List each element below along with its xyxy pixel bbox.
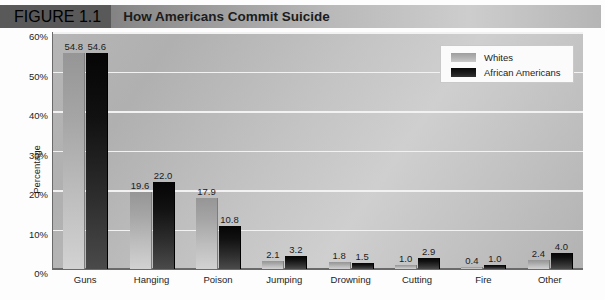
bar-whites[interactable] (130, 192, 152, 269)
figure-title: How Americans Commit Suicide (123, 9, 330, 24)
legend-item-african-americans: African Americans (451, 65, 573, 80)
bar-african-americans[interactable] (153, 182, 175, 269)
bar-african-americans[interactable] (418, 258, 440, 269)
y-axis-tick-label: 40% (8, 110, 48, 121)
figure-number-label: FIGURE 1.1 (14, 8, 101, 26)
bar-whites[interactable] (63, 53, 85, 269)
bar-value-label: 10.8 (209, 214, 249, 225)
x-axis-tick-label: Cutting (382, 274, 452, 285)
bar-african-americans[interactable] (219, 226, 241, 269)
bar-whites[interactable] (461, 267, 483, 269)
x-axis-tick-label: Fire (448, 274, 518, 285)
x-axis-tick-label: Other (515, 274, 585, 285)
bar-group: 2.13.2 (251, 32, 317, 269)
y-axis-tick-label: 50% (8, 70, 48, 81)
bar-whites[interactable] (329, 262, 351, 269)
legend-swatch-icon-african-americans (451, 68, 476, 77)
x-axis-tick-label: Guns (50, 274, 120, 285)
x-axis-tick-label: Hanging (117, 274, 187, 285)
figure-title-bar: FIGURE 1.1 How Americans Commit Suicide (0, 5, 601, 28)
bar-value-label: 3.2 (276, 244, 316, 255)
bar-value-label: 1.5 (342, 251, 382, 262)
legend-swatch-icon-whites (451, 53, 476, 62)
bar-african-americans[interactable] (285, 256, 307, 269)
bar-group: 17.910.8 (185, 32, 251, 269)
legend-item-whites: Whites (451, 50, 573, 65)
bar-african-americans[interactable] (551, 253, 573, 269)
figure-container: FIGURE 1.1 How Americans Commit Suicide … (0, 0, 605, 300)
bar-value-label: 54.6 (77, 41, 117, 52)
y-axis-tick-label: 20% (8, 189, 48, 200)
bar-value-label: 22.0 (143, 170, 183, 181)
x-axis-tick-label: Poison (183, 274, 253, 285)
bar-group: 19.622.0 (118, 32, 184, 269)
y-axis-tick-labels: 0%10%20%30%40%50%60% (8, 32, 48, 269)
bar-african-americans[interactable] (86, 53, 108, 269)
y-axis-tick-label: 10% (8, 228, 48, 239)
bar-value-label: 17.9 (186, 186, 226, 197)
bar-value-label: 1.0 (475, 253, 515, 264)
chart-canvas: Percentage 0%10%20%30%40%50%60% 54.854.6… (0, 28, 605, 300)
y-axis-tick-label: 60% (8, 31, 48, 42)
bar-group: 54.854.6 (52, 32, 118, 269)
bar-value-label: 4.0 (541, 241, 581, 252)
bar-group: 1.81.5 (318, 32, 384, 269)
bar-african-americans[interactable] (352, 263, 374, 269)
bar-whites[interactable] (196, 198, 218, 269)
bar-whites[interactable] (395, 265, 417, 269)
chart-legend: Whites African Americans (440, 45, 574, 83)
bar-african-americans[interactable] (484, 265, 506, 269)
legend-label-whites: Whites (484, 52, 513, 63)
y-axis-tick-label: 30% (8, 149, 48, 160)
x-axis-tick-label: Jumping (249, 274, 319, 285)
legend-label-african-americans: African Americans (484, 67, 561, 78)
figure-number-badge: FIGURE 1.1 (0, 5, 111, 28)
x-axis-tick-label: Drowning (316, 274, 386, 285)
bar-whites[interactable] (262, 261, 284, 269)
bar-value-label: 2.9 (409, 246, 449, 257)
x-axis-tick-labels: GunsHangingPoisonJumpingDrowningCuttingF… (52, 274, 583, 292)
bar-whites[interactable] (528, 260, 550, 269)
y-axis-tick-label: 0% (8, 268, 48, 279)
